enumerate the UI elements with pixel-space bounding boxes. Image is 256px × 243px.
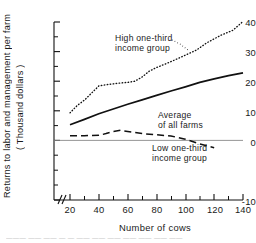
leader-line-high-label xyxy=(172,40,188,50)
annotation-average-all-farms: Averageof all farms xyxy=(158,110,203,131)
y-major-ticks xyxy=(54,22,60,200)
annotation-high-one-third: High one-thirdincome group xyxy=(115,33,172,54)
x-major-ticks xyxy=(70,194,243,200)
figure-caption: ——— —— —— — — —— —— —— —— —— —— —— xyxy=(6,234,250,242)
annotation-low-one-third: Low one-thirdincome group xyxy=(152,143,207,164)
series-line-average-all-farms xyxy=(70,73,243,125)
chart-figure: Returns to labor and management per farm… xyxy=(0,0,256,243)
